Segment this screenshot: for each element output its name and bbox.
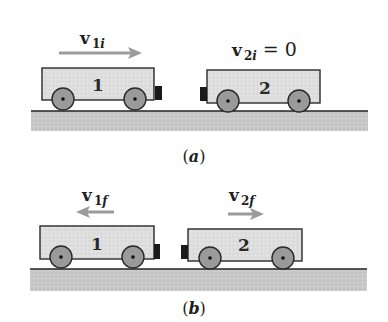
panel-a: v1i v2i= 0 1 [31,28,368,166]
wheel-icon [272,247,294,269]
wheel-icon [124,88,146,110]
wheel-icon [217,90,239,112]
cart-number: 2 [238,235,250,255]
cart-1-b: 1 [40,226,160,268]
cart-number: 2 [259,78,271,98]
cart-number: 1 [92,75,104,95]
panel-label-b: (b) [182,299,206,318]
wheel-icon [52,88,74,110]
bumper [181,245,188,259]
ground-b [30,269,367,291]
bumper [155,86,162,100]
cart-2-a: 2 [200,70,320,112]
panel-b: v1f v2f 1 [30,185,367,318]
wheel-icon [122,246,144,268]
collision-diagram: v1i v2i= 0 1 [0,0,388,322]
ground-a [31,111,368,131]
cart-number: 1 [91,234,103,254]
bumper [200,87,207,101]
velocity-label-v2f: v2f [228,185,256,208]
velocity-label-v2i: v2i= 0 [231,38,297,63]
velocity-label-v1f: v1f [81,185,109,208]
wheel-icon [199,247,221,269]
arrow-right-icon [228,208,264,220]
cart-1-a: 1 [42,68,162,110]
wheel-icon [288,90,310,112]
cart-2-b: 2 [181,229,302,269]
wheel-icon [50,246,72,268]
panel-label-a: (a) [183,147,206,166]
bumper [154,244,160,259]
velocity-label-v1i: v1i [79,28,105,51]
